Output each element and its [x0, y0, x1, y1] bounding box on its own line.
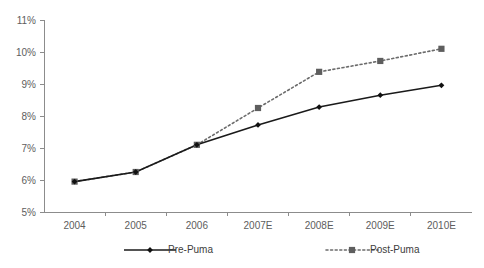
- series-layer: [71, 46, 444, 185]
- x-tick-label: 2008E: [305, 220, 334, 231]
- y-tick-label: 10%: [16, 47, 36, 58]
- y-tick-label: 5%: [22, 207, 37, 218]
- y-tick-label: 8%: [22, 111, 37, 122]
- data-point-post-puma-2009E: [377, 58, 383, 64]
- x-tick-label: 2010E: [427, 220, 456, 231]
- x-tick-label: 2005: [125, 220, 148, 231]
- series-line-post-puma: [75, 49, 442, 182]
- data-point-post-puma-2008E: [316, 69, 322, 75]
- x-tick-label: 2006: [186, 220, 209, 231]
- legend-label-pre-puma: Pre-Puma: [168, 244, 213, 255]
- x-axis: 2004200520062007E2008E2009E2010E: [44, 212, 472, 231]
- chart-legend: Pre-PumaPost-Puma: [124, 244, 420, 255]
- legend-marker-pre-puma: [147, 247, 153, 253]
- y-axis: 5%6%7%8%9%10%11%: [16, 15, 44, 218]
- series-line-pre-puma: [75, 85, 442, 181]
- chart-container: 5%6%7%8%9%10%11% 2004200520062007E2008E2…: [0, 0, 484, 268]
- data-point-post-puma-2007E: [255, 105, 261, 111]
- data-point-post-puma-2010E: [438, 46, 444, 52]
- data-point-pre-puma-2010E: [439, 82, 445, 88]
- y-tick-label: 9%: [22, 79, 37, 90]
- y-tick-label: 7%: [22, 143, 37, 154]
- legend-label-post-puma: Post-Puma: [370, 244, 420, 255]
- legend-marker-post-puma: [349, 247, 355, 253]
- y-tick-label: 6%: [22, 175, 37, 186]
- x-tick-label: 2009E: [366, 220, 395, 231]
- x-tick-label: 2007E: [244, 220, 273, 231]
- y-tick-label: 11%: [17, 15, 36, 26]
- x-tick-label: 2004: [63, 220, 86, 231]
- data-point-pre-puma-2008E: [316, 104, 322, 110]
- line-chart: 5%6%7%8%9%10%11% 2004200520062007E2008E2…: [0, 0, 484, 268]
- data-point-pre-puma-2009E: [377, 92, 383, 98]
- data-point-pre-puma-2007E: [255, 122, 261, 128]
